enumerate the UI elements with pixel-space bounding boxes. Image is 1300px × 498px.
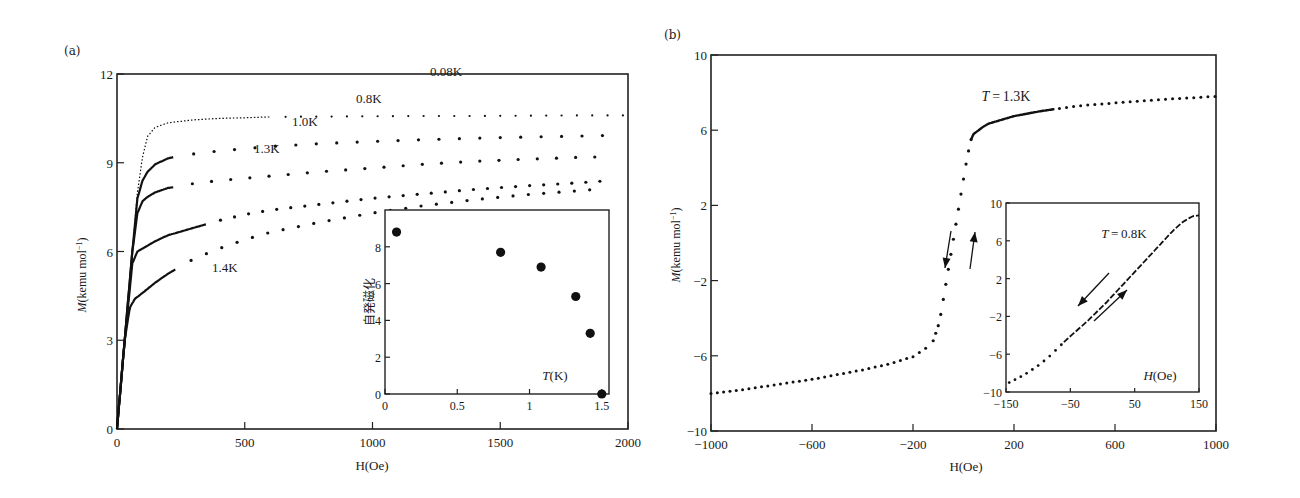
panel-a-inset: 00.511.502468T(K)自発磁化	[362, 210, 609, 413]
panel-b-xtick-label: −200	[900, 437, 927, 452]
curve-label-0.8K: 0.8K	[356, 91, 382, 106]
panel-a-ytick-label: 6	[107, 245, 114, 260]
inset-b-annotation: T = 0.8K	[1101, 226, 1147, 241]
panel-b-ytick-label: −2	[693, 274, 707, 289]
panel-a-chart: 05001000150020000369120.08K0.8K1.0K1.3K1…	[75, 64, 642, 473]
panel-b-chart: −1000−600−2002006001000−10−6−22610T = 1.…	[669, 48, 1230, 474]
curve-label-0.08K: 0.08K	[430, 64, 463, 79]
panel-b-ytick-label: −6	[693, 349, 707, 364]
inset-a-xtick-label: 1.5	[594, 399, 609, 413]
panel-a-ylabel: M(kemu mol−1)	[75, 238, 90, 314]
panel-a-ytick-label: 3	[107, 333, 114, 348]
panel-b-ytick-label: 2	[701, 198, 708, 213]
panel-a-xtick-label: 2000	[615, 435, 641, 450]
panel-b-xlabel: H(Oe)	[949, 459, 982, 474]
panel-a-xlabel: H(Oe)	[355, 458, 388, 473]
panel-b-xtick-label: −1000	[694, 437, 727, 452]
inset-a-ytick-label: 0	[375, 388, 381, 402]
inset-b-xtick-label: 50	[1129, 397, 1141, 411]
inset-a-point	[571, 292, 580, 301]
inset-a-point	[597, 389, 606, 398]
panel-b-xtick-label: 200	[1004, 437, 1024, 452]
inset-a-xlabel: T(K)	[542, 368, 567, 383]
arrow-down-icon	[943, 257, 951, 268]
panel-b-ytick-label: 6	[701, 123, 708, 138]
inset-b-ytick-label: 2	[996, 273, 1002, 287]
inset-a-point	[586, 329, 595, 338]
inset-a-xtick-label: 0.5	[450, 399, 465, 413]
inset-a-xtick-label: 0	[382, 399, 388, 413]
inset-a-point	[496, 248, 505, 257]
panel-b-xtick-label: 600	[1105, 437, 1125, 452]
panel-b-xtick-label: −600	[799, 437, 826, 452]
panel-b-ytick-label: 10	[694, 48, 707, 63]
inset-b-xtick-label: −50	[1061, 397, 1080, 411]
inset-b-xlabel: H(Oe)	[1142, 368, 1176, 383]
curve-label-1.3K: 1.3K	[254, 141, 280, 156]
inset-a-ytick-label: 2	[375, 351, 381, 365]
inset-b-xtick-label: 150	[1190, 397, 1208, 411]
panel-a-xtick-label: 500	[235, 435, 255, 450]
panel-b-inset: −150−5050150−10−6−22610T = 0.8KH(Oe)	[983, 197, 1208, 411]
panel-a-xtick-label: 1500	[487, 435, 513, 450]
panel-b-xtick-label: 1000	[1203, 437, 1229, 452]
inset-b-ytick-label: 10	[990, 197, 1002, 211]
inset-a-xtick-label: 1	[527, 399, 533, 413]
figure-canvas: 05001000150020000369120.08K0.8K1.0K1.3K1…	[0, 0, 1300, 498]
inset-a-ylabel: 自発磁化	[362, 278, 377, 326]
inset-b-ytick-label: 6	[996, 235, 1002, 249]
arrow-up-icon	[970, 232, 978, 242]
inset-b-ytick-label: −6	[989, 348, 1002, 362]
curve-label-1.0K: 1.0K	[292, 114, 318, 129]
panel-a-ytick-label: 12	[100, 67, 113, 82]
panel-a-xtick-label: 0	[114, 435, 121, 450]
panel-a-xtick-label: 1000	[360, 435, 386, 450]
panel-b-ytick-label: −10	[687, 424, 707, 439]
inset-a-ytick-label: 8	[375, 241, 381, 255]
inset-b-ytick-label: −10	[983, 386, 1002, 400]
panel-a-ytick-label: 0	[107, 422, 114, 437]
inset-a-point	[392, 227, 401, 236]
inset-a-point	[536, 262, 545, 271]
inset-b-ytick-label: −2	[989, 310, 1002, 324]
curve-label-1.4K: 1.4K	[212, 260, 238, 275]
inset-a-frame	[385, 210, 609, 394]
panel-b-annotation: T = 1.3K	[982, 89, 1031, 104]
panel-b-ylabel: M(kemu mol−1)	[669, 208, 684, 284]
panel-a-ytick-label: 9	[107, 156, 114, 171]
